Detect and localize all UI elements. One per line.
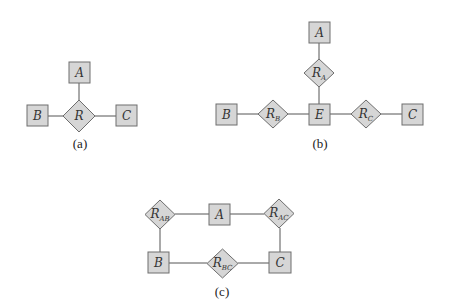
entity-label: C bbox=[408, 108, 417, 122]
relationship-b-RA: RA bbox=[304, 59, 334, 87]
entity-c-A: A bbox=[209, 204, 230, 225]
entity-b-A: A bbox=[309, 22, 330, 43]
caption-b: (b) bbox=[312, 136, 327, 151]
entity-label: B bbox=[153, 256, 163, 270]
entity-label: C bbox=[122, 109, 131, 123]
entity-b-C: C bbox=[402, 104, 423, 125]
relationship-c-RBC: RBC bbox=[207, 249, 238, 278]
entity-c-B: B bbox=[148, 252, 169, 273]
entity-a-A: A bbox=[69, 62, 90, 83]
caption-c: (c) bbox=[215, 284, 229, 299]
relationship-label: R bbox=[73, 109, 83, 123]
entity-a-C: C bbox=[116, 105, 137, 126]
entity-b-E: E bbox=[309, 104, 330, 125]
relationship-a-R: R bbox=[63, 100, 95, 132]
relationship-c-RAC: RAC bbox=[264, 199, 294, 228]
entity-b-B: B bbox=[216, 104, 237, 125]
entity-a-B: B bbox=[27, 105, 48, 126]
relationship-c-RAB: RAB bbox=[145, 200, 175, 229]
caption-a: (a) bbox=[73, 136, 87, 151]
entity-label: A bbox=[314, 26, 324, 40]
er-diagram-figure: A B C R (a) A B E bbox=[0, 0, 450, 305]
entity-label: B bbox=[32, 109, 42, 123]
entity-c-C: C bbox=[269, 252, 291, 273]
relationship-b-RB: RB bbox=[258, 100, 288, 128]
relationship-b-RC: RC bbox=[351, 100, 381, 128]
diagram-c: A B C RAB RAC RBC (c) bbox=[145, 199, 294, 299]
entity-label: A bbox=[214, 208, 224, 222]
entity-label: B bbox=[221, 108, 231, 122]
entity-label: C bbox=[275, 256, 284, 270]
entity-label: E bbox=[314, 108, 324, 122]
diagram-b: A B E C RA RB RC (b) bbox=[216, 22, 423, 151]
entity-label: A bbox=[74, 66, 84, 80]
diagram-a: A B C R (a) bbox=[27, 62, 137, 151]
